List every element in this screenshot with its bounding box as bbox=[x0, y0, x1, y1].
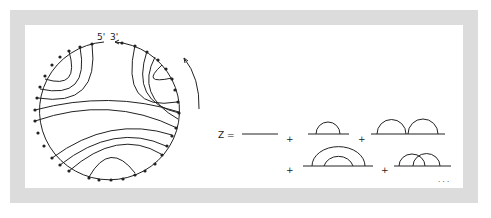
term-crossing-first bbox=[399, 154, 425, 166]
arc-ur-1 bbox=[132, 45, 177, 103]
plus-4: + bbox=[381, 165, 389, 175]
arc-mid-2 bbox=[35, 110, 177, 128]
plus-1: + bbox=[286, 134, 294, 144]
arc-lo-2 bbox=[60, 137, 166, 165]
plus-2: + bbox=[358, 134, 366, 144]
arc-ul-2 bbox=[40, 47, 82, 91]
backbone-circle bbox=[40, 42, 180, 180]
term-two-arcs-second bbox=[408, 119, 438, 134]
five-prime-label: 5' bbox=[97, 32, 105, 42]
equation-terms bbox=[242, 119, 451, 166]
arc-lo-4 bbox=[89, 157, 135, 177]
term-two-arcs-first bbox=[377, 120, 406, 134]
diagram-canvas: 5' 3' Z = + + + + · · · bbox=[0, 0, 491, 218]
arc-lo-1 bbox=[52, 129, 172, 158]
term-single-arc bbox=[316, 122, 340, 134]
arc-ul-3 bbox=[38, 44, 93, 99]
equation-lhs: Z = bbox=[218, 130, 235, 140]
term-nested-inner bbox=[324, 156, 353, 166]
ellipsis: · · · bbox=[438, 178, 449, 186]
three-prime-label: 3' bbox=[110, 32, 118, 42]
plus-3: + bbox=[286, 165, 294, 175]
arc-ur-4 bbox=[153, 65, 172, 80]
rotation-arrow bbox=[184, 58, 199, 109]
rotation-arrow-shaft bbox=[184, 58, 199, 109]
